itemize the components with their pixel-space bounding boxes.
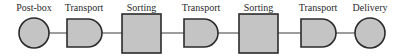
square-icon [122, 14, 161, 53]
node-transport-3: Transport [299, 2, 338, 47]
node-transport-2: Transport [182, 2, 221, 47]
node-label: Transport [299, 2, 338, 13]
d-shape-icon [301, 19, 336, 47]
node-label: Transport [65, 2, 104, 13]
circle-icon [355, 18, 385, 48]
node-transport-1: Transport [65, 2, 104, 47]
d-shape-icon [184, 19, 218, 47]
process-flow-diagram: Post-box Transport Sorting Transport Sor… [0, 0, 406, 56]
circle-icon [19, 18, 49, 48]
node-post-box: Post-box [16, 2, 52, 48]
node-label: Transport [182, 2, 221, 13]
d-shape-icon [67, 19, 102, 47]
node-label: Sorting [244, 2, 273, 13]
node-label: Delivery [353, 2, 388, 13]
node-delivery: Delivery [353, 2, 388, 48]
square-icon [239, 14, 278, 53]
node-label: Sorting [127, 2, 156, 13]
node-label: Post-box [16, 2, 52, 13]
node-sorting-1: Sorting [122, 2, 161, 53]
node-sorting-2: Sorting [239, 2, 278, 53]
